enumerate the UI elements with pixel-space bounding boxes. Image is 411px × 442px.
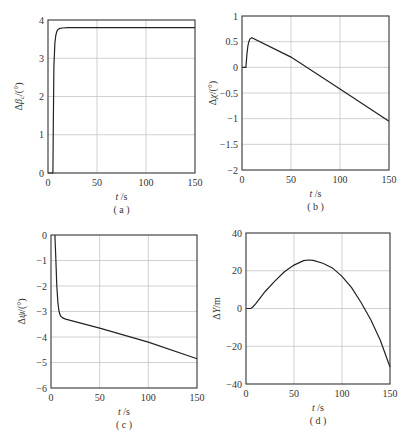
data-line-a: [48, 28, 195, 173]
x-axis-label: t /s: [116, 191, 128, 202]
y-tick-label: 3: [39, 53, 44, 64]
panel-b: 050100150−2−1.5−1−0.500.51t /sΔχ/(°)( b …: [207, 11, 397, 214]
y-tick-label: −1: [36, 255, 47, 266]
grid-lines: [51, 235, 197, 388]
y-tick-label: 40: [232, 228, 242, 239]
x-tick-label: 50: [92, 177, 102, 188]
y-tick-label: 0: [233, 62, 238, 73]
panel-caption: ( a ): [113, 204, 129, 216]
y-axis-label: ΔY/m: [211, 297, 222, 320]
data-line-c: [55, 235, 197, 359]
x-tick-label: 0: [46, 177, 51, 188]
x-axis-label: t /s: [312, 402, 324, 413]
y-tick-label: −5: [36, 357, 47, 368]
x-tick-label: 100: [141, 392, 156, 403]
y-tick-label: 0: [42, 230, 47, 241]
x-tick-label: 100: [139, 177, 154, 188]
x-tick-label: 150: [190, 392, 205, 403]
panel-d: 050100150−40−2002040t /sΔY/m( d ): [211, 228, 398, 428]
grid-lines: [246, 233, 390, 384]
y-tick-label: −3: [36, 306, 47, 317]
y-tick-label: −4: [36, 332, 47, 343]
y-tick-label: 0: [237, 303, 242, 314]
x-axis-label: t /s: [118, 406, 130, 417]
y-tick-label: 0.5: [226, 36, 239, 47]
y-tick-label: −2: [36, 281, 47, 292]
panel-c: 050100150−6−5−4−3−2−10t /sΔψ/(°)( c ): [16, 230, 205, 432]
x-tick-label: 0: [240, 174, 245, 185]
y-tick-label: −1: [227, 113, 238, 124]
x-tick-label: 50: [289, 388, 299, 399]
y-tick-label: 4: [39, 15, 44, 26]
x-tick-label: 0: [49, 392, 54, 403]
x-tick-label: 50: [95, 392, 105, 403]
grid-lines: [242, 16, 389, 170]
y-tick-label: −1.5: [220, 139, 238, 150]
y-axis-label: Δχ/(°): [207, 81, 219, 105]
y-tick-label: −0.5: [220, 88, 238, 99]
panel-caption: ( d ): [310, 415, 327, 427]
figure-canvas: 05010015001234t /sΔβc/(°)( a )050100150−…: [0, 0, 411, 442]
x-tick-label: 100: [335, 388, 350, 399]
data-line-d: [246, 260, 390, 367]
x-axis-label: t /s: [310, 188, 322, 199]
y-tick-label: 2: [39, 91, 44, 102]
y-tick-label: −40: [226, 379, 242, 390]
panel-a: 05010015001234t /sΔβc/(°)( a ): [13, 15, 203, 217]
y-tick-label: 0: [39, 168, 44, 179]
y-tick-label: 1: [39, 129, 44, 140]
y-tick-label: −2: [227, 165, 238, 176]
y-tick-label: −20: [226, 341, 242, 352]
y-tick-label: 20: [232, 265, 242, 276]
x-tick-label: 50: [286, 174, 296, 185]
y-axis-label: Δψ/(°): [16, 298, 28, 324]
y-axis-label: Δβc/(°): [13, 83, 26, 111]
x-tick-label: 150: [188, 177, 203, 188]
grid-lines: [48, 20, 195, 173]
x-tick-label: 150: [382, 174, 397, 185]
x-tick-label: 0: [244, 388, 249, 399]
y-tick-label: 1: [233, 11, 238, 22]
y-tick-label: −6: [36, 383, 47, 394]
x-tick-label: 100: [333, 174, 348, 185]
panel-caption: ( c ): [116, 419, 132, 431]
data-line-b: [242, 38, 389, 122]
panel-caption: ( b ): [307, 201, 324, 213]
x-tick-label: 150: [383, 388, 398, 399]
